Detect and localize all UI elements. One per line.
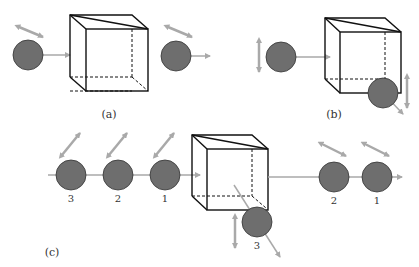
photon-label: 3 xyxy=(254,240,260,251)
photon-label: 2 xyxy=(115,193,121,204)
photon-ball xyxy=(368,78,398,108)
diagonal-polarization-icon xyxy=(19,27,43,37)
panel-c: 3 2 1 3 2 1 (c) xyxy=(45,133,402,259)
photon-ball xyxy=(266,42,296,72)
photon-ball xyxy=(161,41,191,71)
panel-label-a: (a) xyxy=(101,108,116,121)
photon-ball-1-out xyxy=(362,162,392,192)
panel-label-c: (c) xyxy=(45,246,60,259)
photon-ball-1 xyxy=(150,160,180,190)
photon-ball-2 xyxy=(103,160,133,190)
diagonal-polarization-icon xyxy=(156,133,174,155)
photon-label: 2 xyxy=(331,195,337,206)
photon-label: 3 xyxy=(68,193,74,204)
diagonal-polarization-icon xyxy=(168,27,192,37)
polarizing-beam-splitter-diagram: (a) (b) 3 2 1 xyxy=(0,0,419,267)
photon-ball-2-out xyxy=(319,162,349,192)
beam-splitter-cube xyxy=(192,135,268,210)
panel-a: (a) xyxy=(13,15,210,121)
diagonal-polarization-icon xyxy=(109,133,127,155)
photon-label: 1 xyxy=(374,195,380,206)
diagonal-polarization-icon xyxy=(62,133,80,155)
beam-splitter-cube xyxy=(70,15,148,91)
diagonal-polarization-icon xyxy=(365,144,389,156)
photon-ball-3-deflected xyxy=(242,207,272,237)
diagonal-polarization-icon xyxy=(322,144,346,156)
panel-label-b: (b) xyxy=(326,108,342,121)
panel-b: (b) xyxy=(259,18,407,121)
photon-ball xyxy=(13,40,43,70)
photon-ball-3 xyxy=(56,160,86,190)
photon-label: 1 xyxy=(162,193,168,204)
